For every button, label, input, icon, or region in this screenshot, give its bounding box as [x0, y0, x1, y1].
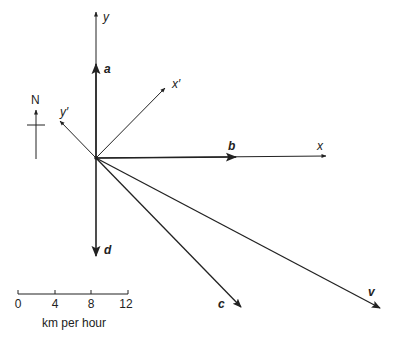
x-prime-axis: x′ — [96, 77, 181, 158]
scale-tick-12: 12 — [119, 297, 133, 311]
scale-tick-0: 0 — [15, 297, 22, 311]
origin-point — [94, 156, 98, 160]
vector-b-label: b — [228, 139, 235, 153]
y-prime-axis: y′ — [59, 105, 96, 158]
vector-diagram: y a x′ y′ x b d c v N — [0, 0, 396, 341]
north-compass: N — [27, 93, 45, 159]
x-axis-label: x — [316, 139, 324, 153]
vector-a-label: a — [104, 62, 111, 76]
x-axis: x — [96, 139, 326, 158]
scale-unit-label: km per hour — [42, 316, 106, 330]
vector-a: a — [96, 62, 111, 158]
y-axis: y — [96, 10, 110, 158]
vector-c: c — [96, 158, 241, 311]
x-prime-label: x′ — [171, 77, 181, 91]
vector-b: b — [96, 139, 236, 158]
north-label: N — [31, 93, 40, 107]
vector-d-label: d — [104, 243, 112, 257]
scale-tick-4: 4 — [52, 297, 59, 311]
vector-c-label: c — [218, 297, 225, 311]
scale-bar: 0 4 8 12 km per hour — [15, 290, 133, 330]
vector-v: v — [96, 158, 380, 308]
vector-v-label: v — [368, 285, 376, 299]
y-axis-label: y — [102, 10, 110, 24]
scale-tick-8: 8 — [88, 297, 95, 311]
y-prime-label: y′ — [59, 105, 69, 119]
